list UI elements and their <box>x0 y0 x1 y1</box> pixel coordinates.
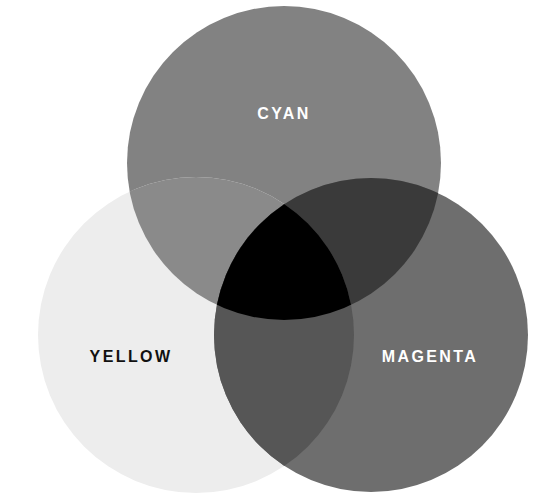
venn-svg-canvas <box>0 0 545 503</box>
venn-diagram: CYAN YELLOW MAGENTA <box>0 0 545 503</box>
